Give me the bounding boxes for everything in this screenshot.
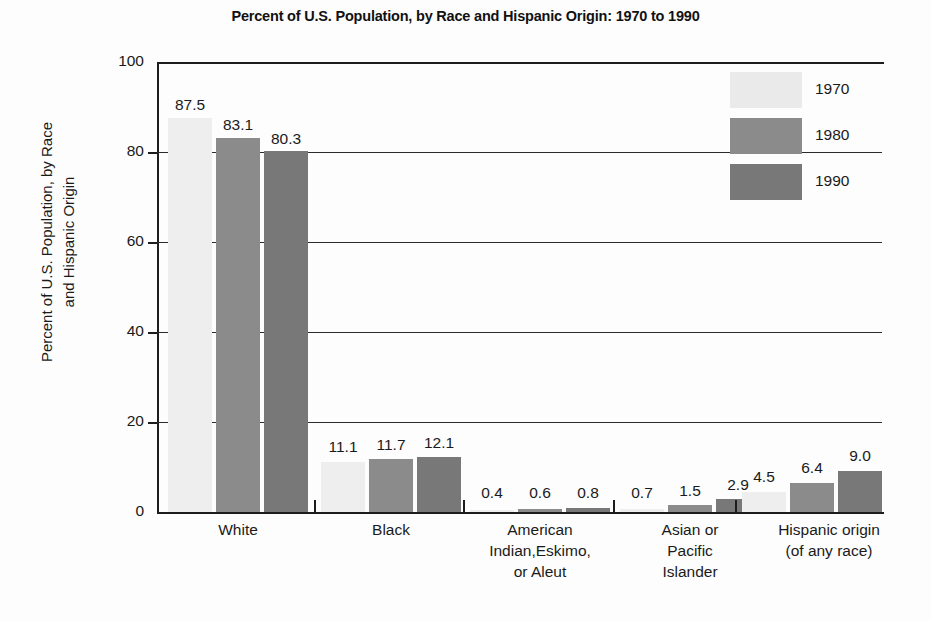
legend-label-1970: 1970: [815, 80, 849, 98]
x-group-label-asian: Asian or Pacific Islander: [626, 519, 754, 582]
bar-value-white-1980: 83.1: [211, 116, 265, 134]
x-tick-separator-3: [613, 500, 615, 512]
y-tick-mark-40: [148, 332, 157, 334]
bar-white-1990[interactable]: [264, 151, 308, 512]
bar-value-hispanic-1980: 6.4: [785, 459, 839, 477]
x-group-label-american-indian: American Indian,Eskimo, or Aleut: [464, 519, 616, 582]
bar-value-asian-1970: 0.7: [615, 484, 669, 502]
legend-swatch-1990-icon: [730, 164, 802, 200]
chart-figure: Percent of U.S. Population, by Race and …: [0, 0, 931, 621]
y-tick-label-60: 60: [100, 232, 144, 250]
y-tick-label-20: 20: [100, 412, 144, 430]
x-tick-separator-4: [735, 500, 737, 512]
bar-value-black-1990: 12.1: [412, 434, 466, 452]
bar-american-indian-1990[interactable]: [566, 508, 610, 512]
bar-value-black-1970: 11.1: [316, 438, 370, 456]
y-tick-mark-20: [148, 422, 157, 424]
y-tick-label-0: 0: [100, 502, 144, 520]
bar-white-1980[interactable]: [216, 138, 260, 512]
x-group-label-white: White: [178, 519, 298, 540]
y-axis-title: Percent of U.S. Population, by Race and …: [36, 42, 80, 442]
bar-hispanic-1980[interactable]: [790, 483, 834, 512]
legend-label-1990: 1990: [815, 172, 849, 190]
y-tick-label-40: 40: [100, 322, 144, 340]
bar-value-hispanic-1990: 9.0: [833, 447, 887, 465]
bar-american-indian-1970[interactable]: [470, 510, 514, 512]
bar-asian-1970[interactable]: [620, 509, 664, 512]
bar-black-1980[interactable]: [369, 459, 413, 512]
y-tick-mark-80: [148, 152, 157, 154]
bar-value-white-1990: 80.3: [259, 130, 313, 148]
bar-value-hispanic-1970: 4.5: [737, 468, 791, 486]
y-tick-label-100: 100: [100, 52, 144, 70]
legend-item-1990[interactable]: 1990: [730, 164, 890, 200]
x-tick-separator-1: [314, 500, 316, 512]
bar-hispanic-1990[interactable]: [838, 471, 882, 512]
bar-black-1970[interactable]: [321, 462, 365, 512]
legend-item-1980[interactable]: 1980: [730, 118, 890, 154]
bar-value-black-1980: 11.7: [364, 436, 418, 454]
bar-white-1970[interactable]: [168, 118, 212, 512]
bar-value-white-1970: 87.5: [163, 96, 217, 114]
x-group-label-hispanic: Hispanic origin (of any race): [754, 519, 904, 561]
bar-value-american-indian-1980: 0.6: [513, 484, 567, 502]
bar-american-indian-1980[interactable]: [518, 509, 562, 512]
y-tick-label-80: 80: [100, 142, 144, 160]
chart-title: Percent of U.S. Population, by Race and …: [0, 8, 931, 24]
x-tick-separator-2: [463, 500, 465, 512]
x-axis-line: [157, 512, 884, 514]
legend-swatch-1970-icon: [730, 72, 802, 108]
legend-item-1970[interactable]: 1970: [730, 72, 890, 108]
legend-swatch-1980-icon: [730, 118, 802, 154]
bar-asian-1980[interactable]: [668, 505, 712, 512]
legend: 1970 1980 1990: [730, 72, 890, 200]
bar-value-american-indian-1990: 0.8: [561, 484, 615, 502]
x-group-label-black: Black: [331, 519, 451, 540]
bar-value-asian-1980: 1.5: [663, 482, 717, 500]
y-tick-mark-60: [148, 242, 157, 244]
bar-black-1990[interactable]: [417, 457, 461, 512]
bar-hispanic-1970[interactable]: [742, 492, 786, 512]
bar-value-american-indian-1970: 0.4: [465, 484, 519, 502]
legend-label-1980: 1980: [815, 126, 849, 144]
